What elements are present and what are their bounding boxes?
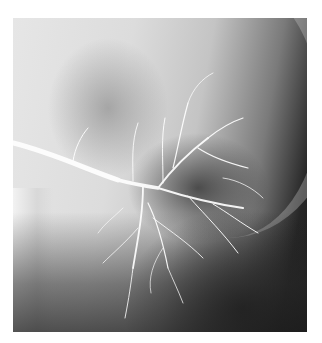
angiogram-image xyxy=(13,18,307,332)
vessel-tree xyxy=(13,18,307,332)
